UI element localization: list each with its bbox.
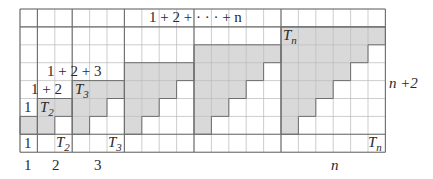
grid-cell bbox=[264, 27, 281, 45]
shaded-cell bbox=[194, 116, 211, 134]
grid-cell bbox=[229, 27, 246, 45]
grid-cell bbox=[142, 27, 159, 45]
grid-cell bbox=[368, 99, 385, 117]
grid-cell bbox=[368, 116, 385, 134]
grid-cell bbox=[159, 134, 176, 152]
shaded-cell bbox=[194, 81, 211, 99]
grid-cell bbox=[90, 134, 107, 152]
grid-cell bbox=[246, 116, 263, 134]
triangular-sum-diagram: 1 1 + 2 1 + 2 + 3 1 + 2 + · · · + n T2 T… bbox=[0, 0, 433, 179]
grid-cell bbox=[368, 81, 385, 99]
grid-cell bbox=[159, 116, 176, 134]
grid-cell bbox=[37, 134, 54, 152]
grid-cell bbox=[333, 116, 350, 134]
shaded-cell bbox=[20, 116, 37, 134]
grid-cell bbox=[298, 134, 315, 152]
grid-cell bbox=[159, 99, 176, 117]
grid-cell bbox=[211, 116, 228, 134]
grid-cell bbox=[281, 9, 298, 27]
shaded-cell bbox=[211, 63, 228, 81]
shaded-cell bbox=[281, 99, 298, 117]
grid-cell bbox=[107, 116, 124, 134]
shaded-cell bbox=[124, 63, 141, 81]
grid-cell bbox=[159, 45, 176, 63]
grid-cell bbox=[368, 9, 385, 27]
grid-cell bbox=[90, 45, 107, 63]
grid-cell bbox=[264, 134, 281, 152]
grid-cell bbox=[142, 45, 159, 63]
grid-cell bbox=[246, 134, 263, 152]
grid-cell bbox=[20, 9, 37, 27]
grid-cell bbox=[55, 45, 72, 63]
shaded-cell bbox=[316, 63, 333, 81]
shaded-cell bbox=[159, 63, 176, 81]
grid-cell bbox=[142, 116, 159, 134]
sum-label-1-2: 1 + 2 bbox=[31, 81, 62, 97]
grid-cell bbox=[281, 134, 298, 152]
grid-cell bbox=[351, 9, 368, 27]
grid-cell bbox=[177, 134, 194, 152]
grid-cell bbox=[37, 9, 54, 27]
grid-cell bbox=[333, 99, 350, 117]
grid-cell bbox=[177, 45, 194, 63]
shaded-cell bbox=[55, 99, 72, 117]
grid-cell bbox=[107, 63, 124, 81]
shaded-cell bbox=[229, 63, 246, 81]
grid-cell bbox=[177, 116, 194, 134]
grid-cell bbox=[177, 99, 194, 117]
grid-cell bbox=[316, 99, 333, 117]
shaded-cell bbox=[333, 63, 350, 81]
shaded-cell bbox=[159, 81, 176, 99]
shaded-cell bbox=[281, 45, 298, 63]
shaded-cell bbox=[298, 81, 315, 99]
shaded-cell bbox=[124, 99, 141, 117]
shaded-cell bbox=[142, 63, 159, 81]
grid-cell bbox=[55, 116, 72, 134]
shaded-cell bbox=[333, 45, 350, 63]
axis-label-1: 1 bbox=[24, 157, 32, 173]
shaded-cell bbox=[72, 99, 89, 117]
shaded-cell bbox=[142, 81, 159, 99]
shaded-cell bbox=[194, 63, 211, 81]
shaded-cell bbox=[281, 63, 298, 81]
grid-cell bbox=[264, 63, 281, 81]
grid-cell bbox=[264, 116, 281, 134]
grid-cell bbox=[177, 27, 194, 45]
shaded-cell bbox=[298, 63, 315, 81]
shaded-cell bbox=[194, 45, 211, 63]
grid-cell bbox=[229, 116, 246, 134]
grid-cell bbox=[90, 27, 107, 45]
grid-cell bbox=[246, 9, 263, 27]
shaded-cell bbox=[246, 45, 263, 63]
grid-cell bbox=[72, 45, 89, 63]
sum-label-1-2-3: 1 + 2 + 3 bbox=[47, 63, 101, 79]
grid-cell bbox=[264, 81, 281, 99]
shaded-cell bbox=[107, 81, 124, 99]
shaded-cell bbox=[298, 27, 315, 45]
grid-cell bbox=[55, 27, 72, 45]
grid-cell bbox=[264, 99, 281, 117]
axis-label-n: n bbox=[331, 157, 339, 173]
shaded-cell bbox=[72, 116, 89, 134]
grid-cell bbox=[124, 134, 141, 152]
shaded-cell bbox=[90, 99, 107, 117]
sum-label-1: 1 bbox=[24, 99, 32, 115]
shaded-cell bbox=[281, 116, 298, 134]
shaded-cell bbox=[351, 27, 368, 45]
grid-cell bbox=[298, 116, 315, 134]
grid-cell bbox=[55, 9, 72, 27]
grid-cell bbox=[211, 27, 228, 45]
grid-cell bbox=[246, 99, 263, 117]
grid-cell bbox=[333, 9, 350, 27]
grid-cell bbox=[316, 116, 333, 134]
grid-cell bbox=[20, 63, 37, 81]
grid-cell bbox=[229, 134, 246, 152]
grid-cell bbox=[351, 81, 368, 99]
grid-cell bbox=[37, 45, 54, 63]
grid-cell bbox=[20, 45, 37, 63]
shaded-cell bbox=[264, 45, 281, 63]
grid-cell bbox=[107, 45, 124, 63]
shaded-cell bbox=[194, 99, 211, 117]
shaded-cell bbox=[90, 81, 107, 99]
grid-cell bbox=[264, 9, 281, 27]
